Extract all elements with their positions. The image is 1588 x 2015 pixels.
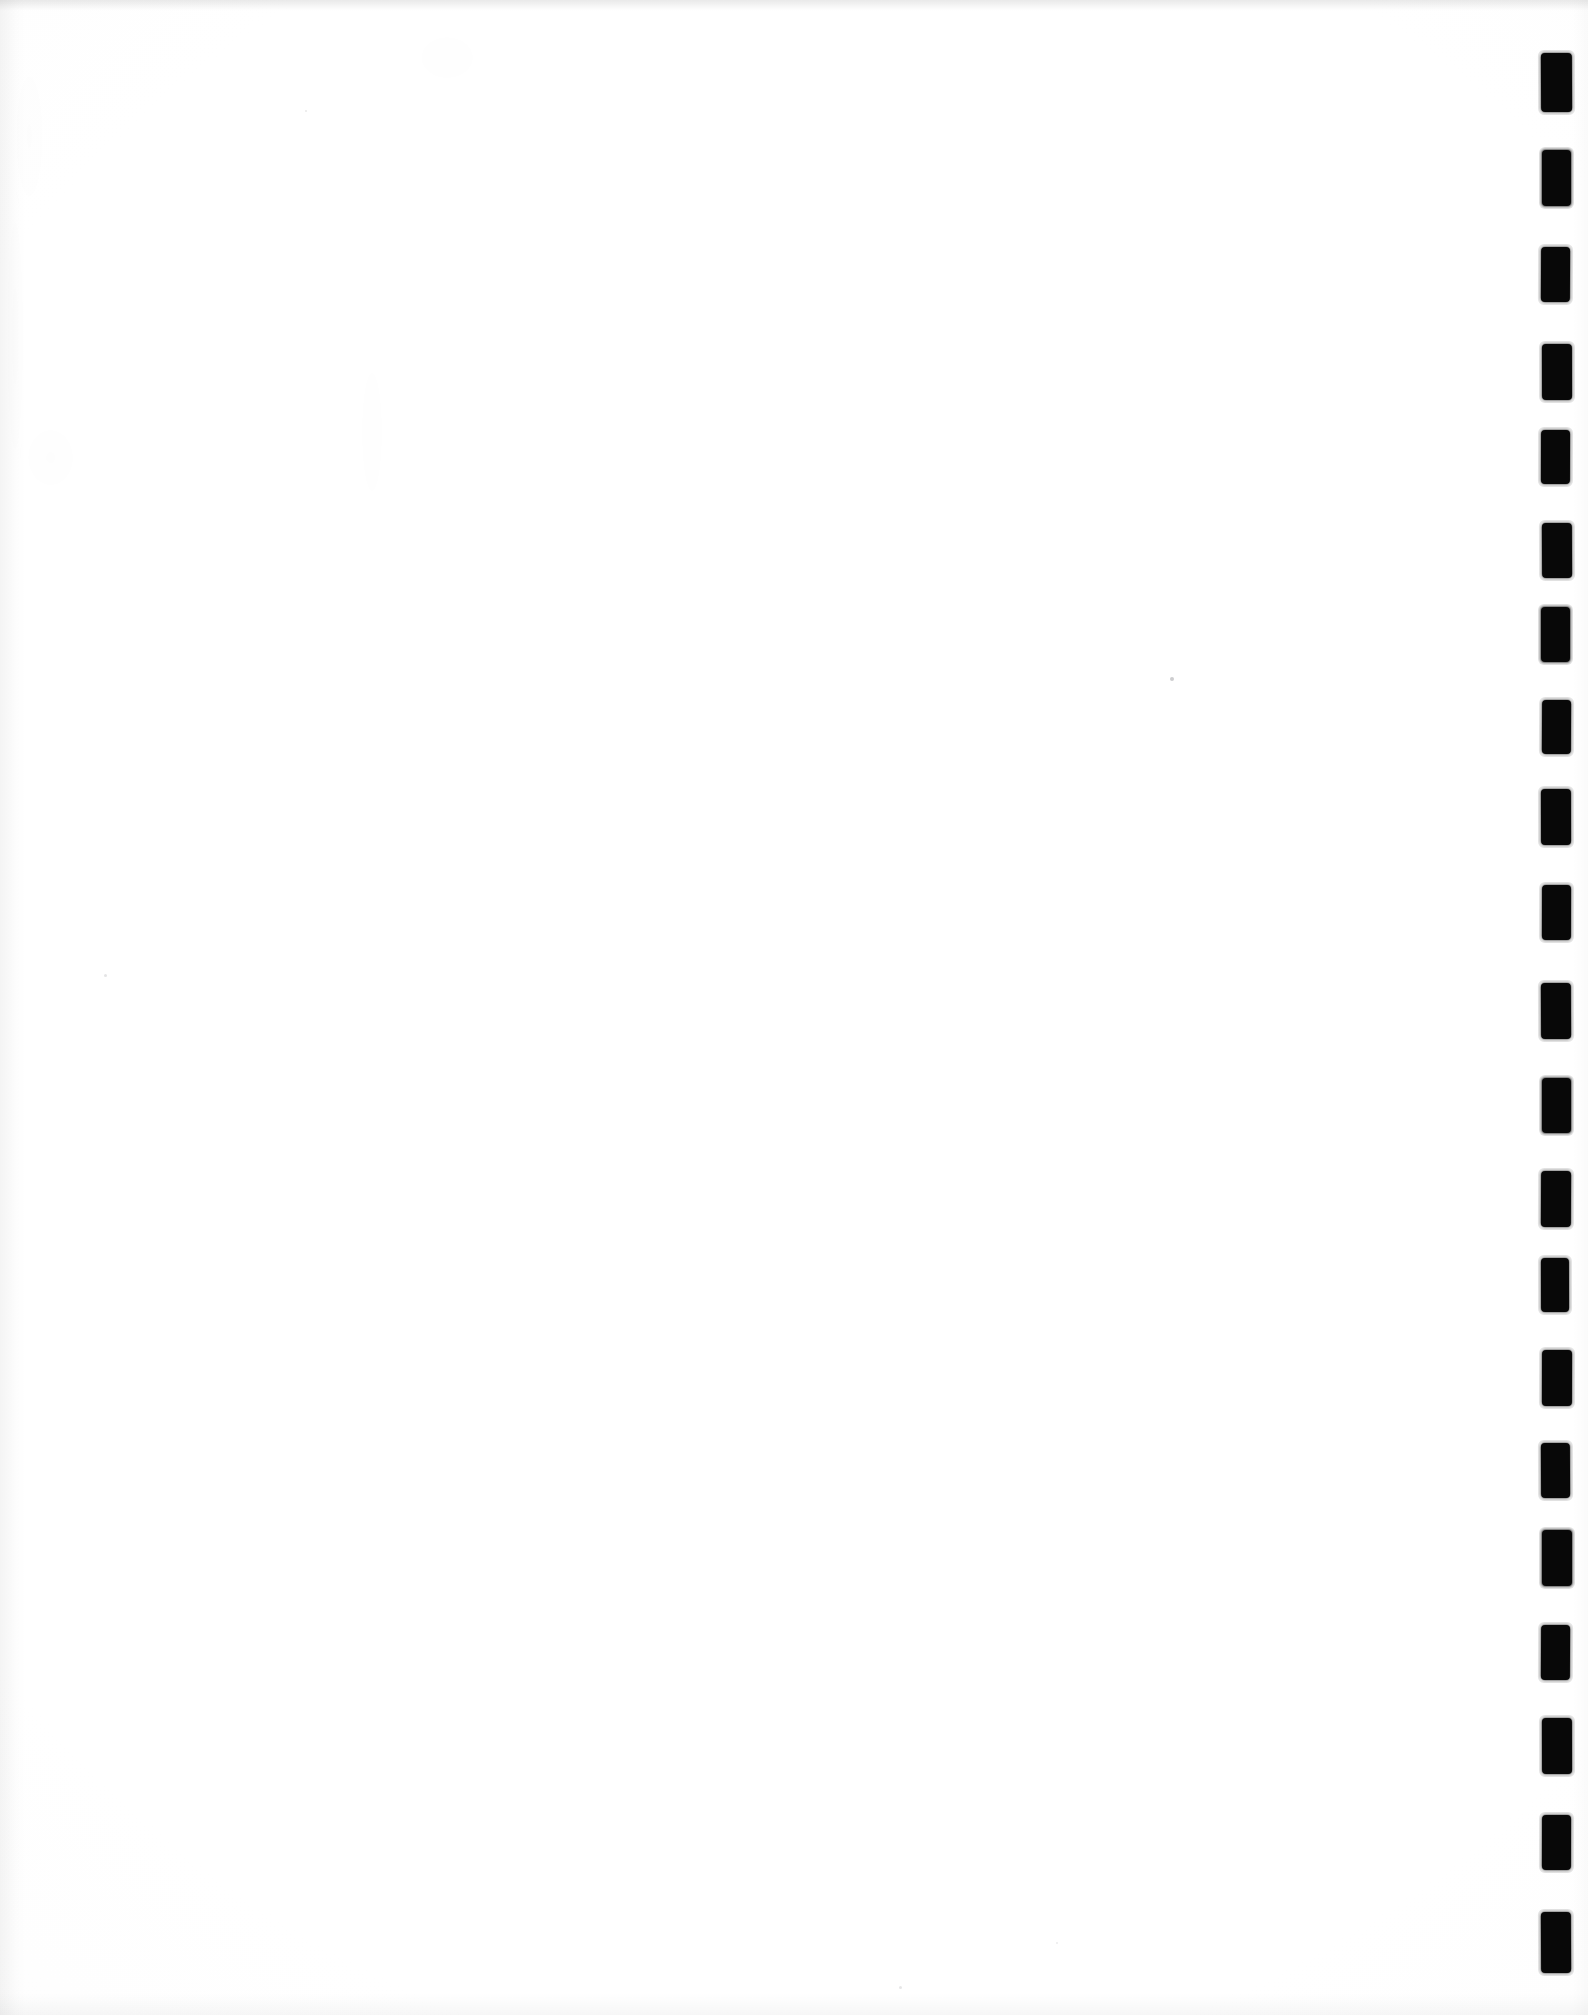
scan-edge-right xyxy=(1572,0,1588,2015)
paper-background xyxy=(0,0,1588,2015)
scan-edge-left xyxy=(0,0,26,2015)
scanned-page xyxy=(0,0,1588,2015)
scan-edge-bottom xyxy=(0,1993,1588,2015)
scan-edge-top xyxy=(0,0,1588,11)
